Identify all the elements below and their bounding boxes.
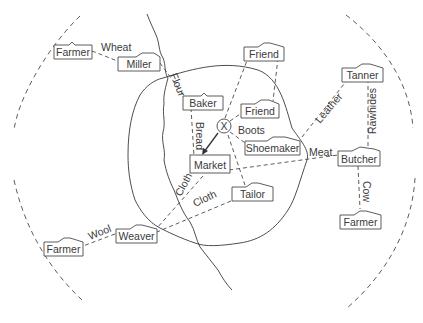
node-label: Farmer — [344, 216, 378, 228]
node-label: Farmer — [47, 243, 81, 255]
node-label: Butcher — [341, 153, 378, 165]
link-butcher-farmer — [358, 166, 360, 209]
node-shoemaker[interactable]: Shoemaker — [245, 137, 300, 155]
flow-label-wheat: Wheat — [101, 41, 131, 53]
person-x-label: X — [220, 120, 227, 132]
node-friend-top[interactable]: Friend — [244, 43, 284, 61]
node-label: Tailor — [240, 188, 266, 200]
diagram-canvas: X Farmer Miller Baker Friend Friend Tann… — [0, 0, 423, 323]
link-baker-market — [191, 108, 194, 156]
link-friend-top-friend-inner — [273, 58, 278, 101]
river — [147, 14, 232, 290]
flow-label-cow: Cow — [361, 181, 373, 202]
node-baker[interactable]: Baker — [183, 93, 223, 110]
node-label: Shoemaker — [246, 142, 300, 154]
node-farmer-cow[interactable]: Farmer — [340, 211, 381, 229]
node-label: Farmer — [56, 46, 90, 58]
flow-label-cloth-tailor: Cloth — [191, 188, 218, 209]
flow-label-meat: Meat — [309, 146, 332, 158]
trade-network-diagram: X Farmer Miller Baker Friend Friend Tann… — [0, 0, 423, 323]
node-label: Tanner — [346, 69, 379, 81]
flow-label-rawhides: Rawhides — [366, 88, 378, 134]
flow-label-flour: Flour — [168, 71, 188, 98]
flow-label-boots: Boots — [238, 124, 265, 136]
node-farmer-wheat[interactable]: Farmer — [54, 42, 92, 59]
link-x-tailor — [228, 135, 245, 185]
flow-label-cloth-market: Cloth — [172, 171, 194, 198]
node-label: Friend — [245, 105, 275, 117]
node-tanner[interactable]: Tanner — [342, 64, 383, 82]
node-label: Market — [194, 159, 226, 171]
node-weaver[interactable]: Weaver — [116, 225, 157, 243]
flow-label-wool: Wool — [86, 222, 113, 242]
node-farmer-wool[interactable]: Farmer — [44, 238, 83, 256]
outer-boundary-right-lower — [347, 178, 415, 308]
node-butcher[interactable]: Butcher — [338, 147, 380, 166]
flow-label-leather: Leather — [312, 90, 344, 125]
node-friend-inner[interactable]: Friend — [241, 100, 279, 118]
node-label: Miller — [126, 58, 152, 70]
node-market[interactable]: Market — [190, 155, 230, 173]
node-label: Friend — [249, 48, 279, 60]
node-label: Baker — [189, 97, 217, 109]
node-miller[interactable]: Miller — [118, 53, 160, 71]
flow-label-bread: Bread — [194, 122, 206, 150]
node-label: Weaver — [119, 230, 155, 242]
node-tailor[interactable]: Tailor — [232, 183, 273, 201]
outer-boundary-left — [14, 16, 80, 130]
